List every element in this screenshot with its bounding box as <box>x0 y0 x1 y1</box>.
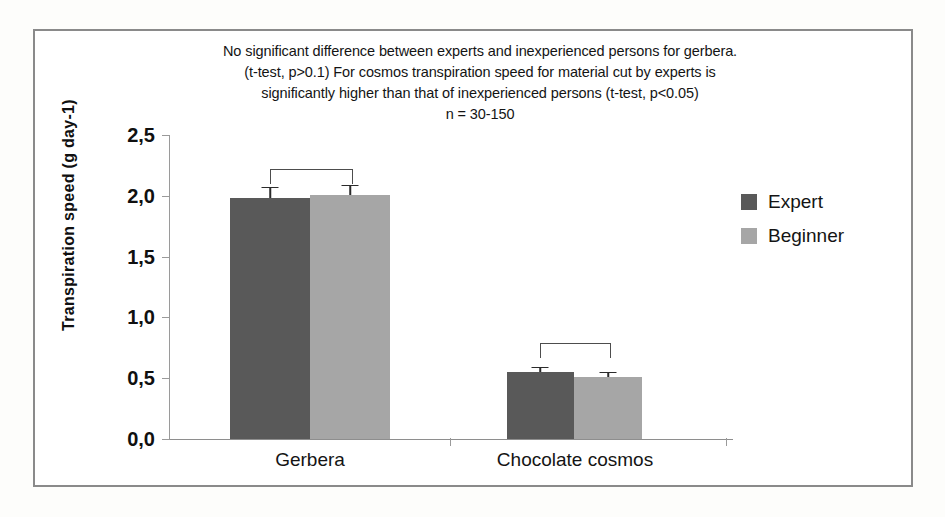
x-axis-line <box>163 439 733 440</box>
y-tick-0-0 <box>162 439 170 440</box>
legend: Expert Beginner <box>741 191 844 259</box>
y-tick-label-1-5: 1,5 <box>127 245 155 268</box>
legend-label-beginner: Beginner <box>768 225 844 247</box>
y-tick-1-0 <box>162 317 170 318</box>
y-tick-label-0-5: 0,5 <box>127 367 155 390</box>
chart-sample-size-note: n = 30-150 <box>135 104 825 125</box>
y-tick-0-5 <box>162 378 170 379</box>
legend-item-beginner[interactable]: Beginner <box>741 225 844 247</box>
y-axis-line <box>169 135 170 439</box>
bar-gerbera-beginner[interactable] <box>310 195 390 439</box>
legend-label-expert: Expert <box>768 191 823 213</box>
bar-cosmos-beginner[interactable] <box>574 377 642 439</box>
chart-title-line-1: No significant difference between expert… <box>135 41 825 62</box>
significance-bracket-gerbera <box>270 169 353 184</box>
plot-area: 2,5 2,0 1,5 1,0 0,5 0,0 <box>169 135 727 439</box>
category-divider-tick <box>450 438 451 446</box>
legend-swatch-expert-icon <box>741 194 757 210</box>
y-tick-2-0 <box>162 196 170 197</box>
figure-border: No significant difference between expert… <box>33 29 913 487</box>
legend-swatch-beginner-icon <box>741 228 757 244</box>
y-tick-label-2-5: 2,5 <box>127 124 155 147</box>
y-tick-label-2-0: 2,0 <box>127 184 155 207</box>
legend-item-expert[interactable]: Expert <box>741 191 844 213</box>
y-tick-1-5 <box>162 257 170 258</box>
x-tick-label-gerbera: Gerbera <box>210 449 410 471</box>
x-tick-label-chocolate-cosmos: Chocolate cosmos <box>475 449 675 471</box>
significance-bracket-cosmos <box>540 343 611 358</box>
chart-title-line-3: significantly higher than that of inexpe… <box>135 83 825 104</box>
bar-cosmos-expert[interactable] <box>507 372 574 439</box>
plot-right-edge-tick <box>726 438 727 446</box>
y-tick-2-5 <box>162 135 170 136</box>
y-axis-title: Transpiration speed (g day-1) <box>60 65 78 365</box>
chart-title: No significant difference between expert… <box>135 41 825 125</box>
y-tick-label-0-0: 0,0 <box>127 428 155 451</box>
y-tick-label-1-0: 1,0 <box>127 306 155 329</box>
bar-gerbera-expert[interactable] <box>230 198 310 439</box>
chart-title-line-2: (t-test, p>0.1) For cosmos transpiration… <box>135 62 825 83</box>
